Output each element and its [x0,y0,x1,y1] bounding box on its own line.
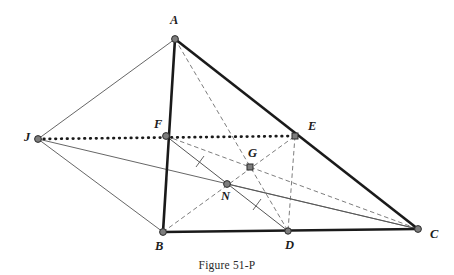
vertex-j [35,136,42,143]
label-b: B [155,240,163,253]
vertex-n [224,181,231,188]
label-j: J [24,131,30,144]
geometry-diagram [0,0,454,275]
segment-ad-median [175,39,288,231]
vertex-d [285,228,291,234]
vertex-b [160,229,167,236]
label-a: A [170,14,178,27]
label-n: N [221,190,230,203]
vertex-a [172,36,179,43]
label-f: F [154,118,162,131]
figure-caption: Figure 51-P [0,259,454,271]
vertex-g [247,164,253,170]
label-g: G [248,147,257,160]
segment-jb [38,139,163,232]
vertex-e [292,133,298,139]
tick-mark-fn [196,156,204,167]
vertex-f [163,133,170,140]
label-d: D [285,239,294,252]
label-c: C [430,228,438,241]
label-e: E [308,120,316,133]
vertex-c [415,226,422,233]
figure-container: A B C D E F G N J Figure 51-P [0,0,454,275]
